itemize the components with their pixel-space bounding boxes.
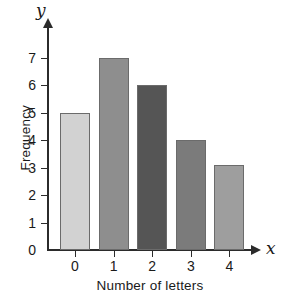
x-axis-tick-label: 0 (63, 259, 87, 273)
y-axis-tick (41, 195, 48, 196)
x-axis-arrow-icon (251, 245, 261, 255)
y-axis-tick-label: 1 (12, 216, 36, 230)
bar (214, 165, 244, 250)
x-axis-tick (229, 251, 230, 257)
x-axis-variable-label: x (266, 240, 276, 257)
bar (176, 140, 206, 250)
y-axis-tick-label: 6 (12, 78, 36, 92)
x-axis-tick (75, 251, 76, 257)
x-axis-tick (191, 251, 192, 257)
y-axis-tick (41, 223, 48, 224)
x-axis-title: Number of letters (47, 279, 253, 293)
bar (99, 58, 129, 250)
y-axis-tick-label: 3 (12, 161, 36, 175)
bar-chart: y x Frequency Number of letters 01234567… (0, 0, 284, 302)
y-axis-tick-label: 5 (12, 106, 36, 120)
y-axis-tick-label: 7 (12, 51, 36, 65)
y-axis-tick (41, 85, 48, 86)
y-axis-tick-label: 2 (12, 188, 36, 202)
y-axis-tick-label: 0 (12, 243, 36, 257)
y-axis-tick (41, 58, 48, 59)
x-axis-tick-label: 1 (102, 259, 126, 273)
x-axis-tick-label: 3 (179, 259, 203, 273)
bar (137, 85, 167, 250)
y-axis-tick (41, 168, 48, 169)
x-axis-tick (152, 251, 153, 257)
y-axis-line (47, 27, 49, 251)
y-axis-variable-label: y (36, 2, 46, 19)
y-axis-tick (41, 113, 48, 114)
y-axis-tick-label: 4 (12, 133, 36, 147)
x-axis-tick-label: 4 (217, 259, 241, 273)
x-axis-tick-label: 2 (140, 259, 164, 273)
y-axis-tick (41, 140, 48, 141)
bar (60, 113, 90, 250)
x-axis-tick (114, 251, 115, 257)
